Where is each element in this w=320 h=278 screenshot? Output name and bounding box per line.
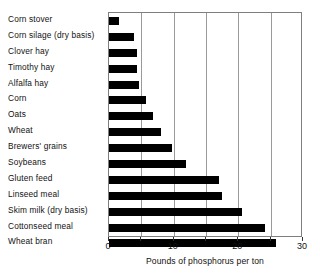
axis-tick-label: 10 xyxy=(168,241,178,251)
category-label-column: Corn stoverCorn silage (dry basis)Clover… xyxy=(0,12,103,250)
bar xyxy=(109,65,137,73)
bar-row xyxy=(109,188,301,204)
bar-row xyxy=(109,29,301,45)
category-label: Wheat xyxy=(0,123,103,139)
category-label: Corn silage (dry basis) xyxy=(0,28,103,44)
category-label: Corn stover xyxy=(0,12,103,28)
bar xyxy=(109,192,222,200)
bar xyxy=(109,81,139,89)
category-label: Linseed meal xyxy=(0,187,103,203)
axis-tick-label: 0 xyxy=(105,241,110,251)
bar-row xyxy=(109,220,301,236)
bar xyxy=(109,96,146,104)
phosphorus-bar-chart: Corn stoverCorn silage (dry basis)Clover… xyxy=(0,0,320,278)
axis-tick-label: 30 xyxy=(297,241,307,251)
bar-row xyxy=(109,204,301,220)
bar-row xyxy=(109,108,301,124)
bar xyxy=(109,49,137,57)
bar-row xyxy=(109,45,301,61)
bar xyxy=(109,128,161,136)
bar xyxy=(109,208,242,216)
category-label: Brewers' grains xyxy=(0,139,103,155)
bar xyxy=(109,112,153,120)
plot-area xyxy=(108,12,302,237)
category-label: Soybeans xyxy=(0,155,103,171)
category-label: Skim milk (dry basis) xyxy=(0,203,103,219)
bar-row xyxy=(109,77,301,93)
bar-row xyxy=(109,13,301,29)
x-axis-tick-labels: 0102030 xyxy=(0,241,320,255)
bar-row xyxy=(109,172,301,188)
bar xyxy=(109,176,219,184)
category-label: Corn xyxy=(0,91,103,107)
bar-series xyxy=(109,13,301,236)
bar-row xyxy=(109,156,301,172)
bar xyxy=(109,33,134,41)
bar xyxy=(109,17,119,25)
x-axis-label: Pounds of phosphorus per ton xyxy=(108,256,302,266)
bar xyxy=(109,144,172,152)
category-label: Timothy hay xyxy=(0,60,103,76)
bar-row xyxy=(109,124,301,140)
bar xyxy=(109,160,186,168)
bar-row xyxy=(109,92,301,108)
bar-row xyxy=(109,61,301,77)
axis-tick-label: 20 xyxy=(232,241,242,251)
bar-row xyxy=(109,140,301,156)
category-label: Gluten feed xyxy=(0,171,103,187)
bar xyxy=(109,224,265,232)
category-label: Alfalfa hay xyxy=(0,76,103,92)
category-label: Oats xyxy=(0,107,103,123)
category-label: Cottonseed meal xyxy=(0,219,103,235)
category-label: Clover hay xyxy=(0,44,103,60)
